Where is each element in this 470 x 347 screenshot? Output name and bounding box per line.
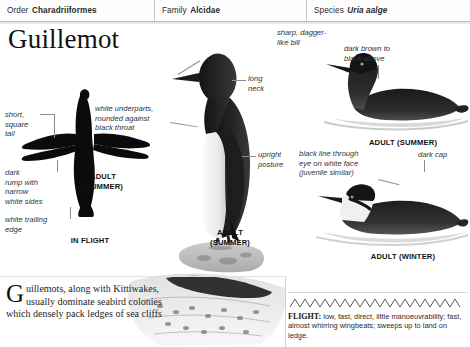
caption-standing-adult-summer: ADULT (SUMMER) [200,228,260,247]
annotation-dark-rump: dark rump with narrow white sides [5,168,65,206]
taxonomy-bar: Order Charadriiformes Family Alcidae Spe… [0,0,470,22]
taxonomy-family-label: Family [162,6,187,15]
flight-label: FLIGHT: [288,312,321,321]
annotation-white-trailing-edge: white trailing edge [5,215,71,234]
page-title: Guillemot [8,26,119,53]
taxonomy-order-value: Charadriiformes [32,6,97,15]
leader-line-brown-above [378,65,379,79]
taxonomy-order-label: Order [7,6,28,15]
leader-line-neck [232,80,246,81]
bottom-vertical-divider [285,276,286,347]
annotation-upright-posture: upright posture [258,150,302,169]
leader-line-dark-cap [424,160,425,172]
leader-line-rump [57,160,58,172]
caption-swimming-adult-summer: ADULT (SUMMER) [340,138,466,148]
intro-text: uillemots, along with Kittiwakes, usuall… [6,283,162,319]
taxonomy-species-cell: Species Uria aalge [307,0,470,21]
taxonomy-species-label: Species [314,6,344,15]
caption-flight-adult-summer: ADULT (SUMMER) [78,172,128,191]
flight-section-rule [288,292,468,293]
annotation-sharp-bill: sharp, dagger- like bill [277,28,337,47]
flight-section: FLIGHT: low, fast, direct, little manoeu… [288,296,468,340]
adult-winter-illustration [316,168,470,254]
taxonomy-family-value: Alcidae [190,6,220,15]
flight-zigzag-icon [288,296,466,310]
leader-line-trailing-edge [70,207,71,219]
annotation-white-underparts: white underparts, rounded against black … [95,104,171,133]
caption-adult-winter: ADULT (WINTER) [340,252,466,262]
annotation-dark-brown-above: dark brown to black above [344,44,416,63]
annotation-black-line-eye: black line through eye on white face (ju… [299,149,383,178]
taxonomy-species-value: Uria aalge [347,6,387,15]
leader-line-tail-vertical [54,114,55,138]
leader-line-posture [242,156,256,157]
flight-description: FLIGHT: low, fast, direct, little manoeu… [288,312,468,340]
leader-line-tail [40,114,54,115]
caption-in-flight: IN FLIGHT [52,236,128,246]
taxonomy-family-cell: Family Alcidae [155,0,307,21]
annotation-dark-cap: dark cap [418,150,464,160]
intro-paragraph: Guillemots, along with Kittiwakes, usual… [6,283,186,321]
taxonomy-order-cell: Order Charadriiformes [0,0,155,21]
intro-dropcap: G [6,283,26,304]
intro-section-rule [0,276,285,277]
field-guide-page: Order Charadriiformes Family Alcidae Spe… [0,0,470,347]
annotation-long-neck: long neck [248,74,286,93]
